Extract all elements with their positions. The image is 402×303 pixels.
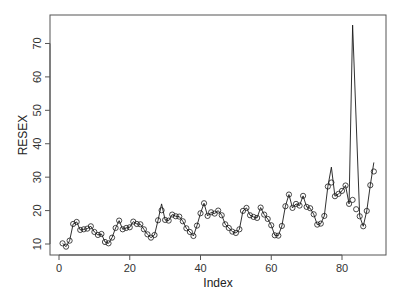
y-tick-label: 10 [31, 238, 43, 250]
x-tick-label: 40 [194, 262, 206, 274]
line-chart: 020406080 10203040506070 Index RESEX [0, 0, 402, 303]
data-point [350, 197, 355, 202]
x-axis: 020406080 [56, 255, 348, 274]
y-axis-title: RESEX [16, 115, 30, 156]
data-point [354, 207, 359, 212]
x-tick-label: 60 [265, 262, 277, 274]
y-tick-label: 50 [31, 104, 43, 116]
chart-figure: 020406080 10203040506070 Index RESEX [0, 0, 402, 303]
y-tick-label: 40 [31, 138, 43, 150]
x-axis-title: Index [203, 276, 232, 290]
x-tick-label: 0 [56, 262, 62, 274]
x-tick-label: 80 [336, 262, 348, 274]
y-tick-label: 60 [31, 71, 43, 83]
y-tick-label: 70 [31, 37, 43, 49]
y-axis: 10203040506070 [31, 37, 50, 250]
plot-frame [50, 15, 386, 255]
x-tick-label: 20 [124, 262, 136, 274]
y-tick-label: 20 [31, 204, 43, 216]
data-points [60, 169, 377, 249]
y-tick-label: 30 [31, 171, 43, 183]
